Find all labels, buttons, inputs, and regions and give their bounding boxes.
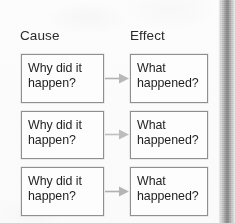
effect-box[interactable]: What happened?: [130, 54, 208, 103]
cause-box-text: Why did it happen?: [28, 174, 100, 204]
effect-box[interactable]: What happened?: [130, 167, 208, 216]
effect-box-text: What happened?: [137, 174, 204, 204]
diagram-canvas: Cause Effect Why did it happen? What hap…: [0, 0, 235, 223]
arrow-right-icon: [105, 72, 130, 85]
effect-box-text: What happened?: [137, 118, 204, 148]
cause-box[interactable]: Why did it happen?: [21, 54, 104, 103]
page-gutter-texture: [219, 0, 234, 223]
arrow-right-icon: [105, 128, 130, 141]
effect-box-text: What happened?: [137, 61, 204, 91]
cause-box[interactable]: Why did it happen?: [21, 111, 104, 159]
column-header-cause: Cause: [20, 28, 60, 43]
arrow-right-icon: [105, 185, 130, 198]
cause-box[interactable]: Why did it happen?: [21, 167, 104, 216]
cause-box-text: Why did it happen?: [28, 61, 100, 91]
column-header-effect: Effect: [130, 28, 165, 43]
cause-box-text: Why did it happen?: [28, 118, 100, 148]
effect-box[interactable]: What happened?: [130, 111, 208, 159]
